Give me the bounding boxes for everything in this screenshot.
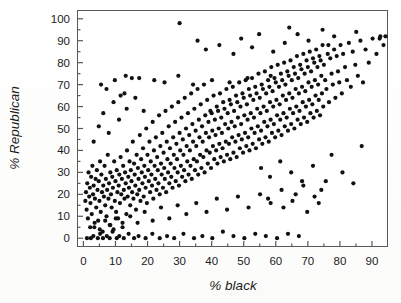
x-tick-label: 0 (80, 255, 86, 267)
y-tick-label: 60 (34, 101, 70, 113)
y-tick-label: 50 (34, 123, 70, 135)
y-tick-label: 10 (34, 210, 70, 222)
y-axis-label: % Republican (7, 86, 22, 169)
y-tick-label: 0 (34, 232, 70, 244)
x-tick-label: 50 (237, 255, 250, 267)
x-tick-label: 80 (334, 255, 347, 267)
x-tick-label: 40 (205, 255, 218, 267)
y-tick-label: 90 (34, 35, 70, 47)
x-tick-label: 10 (109, 255, 122, 267)
x-tick-label: 20 (141, 255, 154, 267)
y-tick-label: 40 (34, 144, 70, 156)
y-tick-label: 20 (34, 188, 70, 200)
scatter-points-layer (77, 10, 388, 247)
x-tick-label: 90 (366, 255, 379, 267)
y-tick-label: 100 (34, 13, 70, 25)
y-tick-label: 70 (34, 79, 70, 91)
x-tick-label: 70 (301, 255, 314, 267)
y-tick-label: 30 (34, 166, 70, 178)
scatter-plot-figure: 0102030405060708090100010203040506070809… (0, 0, 401, 303)
x-axis-label: % black (209, 278, 256, 293)
x-tick-label: 60 (269, 255, 282, 267)
x-tick-label: 30 (173, 255, 186, 267)
y-tick-label: 80 (34, 57, 70, 69)
